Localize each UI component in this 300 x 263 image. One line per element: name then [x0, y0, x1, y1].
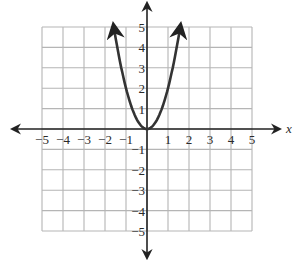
- y-tick-label: −1: [131, 142, 145, 157]
- parabola-graph: −5−4−3−2−112345 54321−1−2−3−4−5 x: [0, 0, 300, 263]
- x-tick-label: −2: [98, 132, 112, 147]
- x-tick-label: −5: [35, 132, 49, 147]
- x-tick-label: −4: [56, 132, 70, 147]
- y-tick-label: 5: [139, 20, 146, 35]
- y-tick-label: −2: [131, 163, 145, 178]
- x-tick-label: 5: [249, 132, 256, 147]
- x-axis-label: x: [285, 121, 292, 136]
- y-tick-label: 3: [139, 61, 146, 76]
- y-tick-label: −3: [131, 183, 145, 198]
- x-tick-labels: −5−4−3−2−112345: [35, 132, 255, 147]
- y-tick-label: 1: [139, 102, 146, 117]
- x-tick-label: −3: [77, 132, 91, 147]
- x-tick-label: 3: [207, 132, 214, 147]
- axes: [12, 3, 280, 258]
- y-tick-label: −4: [131, 204, 145, 219]
- x-tick-label: 1: [165, 132, 172, 147]
- y-tick-label: −5: [131, 224, 145, 239]
- y-tick-label: 2: [139, 81, 146, 96]
- x-tick-label: 2: [186, 132, 193, 147]
- y-tick-label: 4: [139, 40, 146, 55]
- x-tick-label: 4: [228, 132, 235, 147]
